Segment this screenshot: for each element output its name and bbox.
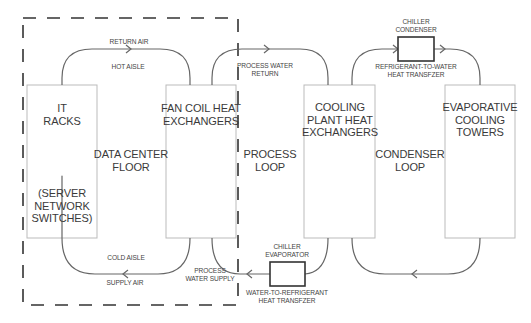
process-water-return-line1: PROCESS WATER [237, 62, 293, 70]
chiller-evaporator-desc2: HEAT TRANSFZER [246, 297, 328, 305]
supply-air-label: SUPPLY AIR [107, 279, 144, 287]
process-loop-line1: PROCESS [243, 148, 296, 161]
fan-coil-line2: EXCHANGERS [161, 115, 241, 128]
hot-aisle-label: HOT AISLE [111, 63, 144, 71]
cooling-plant-line1: COOLING [302, 101, 378, 114]
process-water-supply-line1: PROCESS [185, 267, 234, 275]
cooling-plant-line3: EXCHANGERS [302, 126, 378, 139]
condenser-loop-bottom-line [352, 238, 480, 274]
chiller-condenser-title2: CONDENSER [395, 26, 436, 34]
chiller-evaporator-title1: CHILLER [265, 243, 309, 251]
data-center-floor-label: DATA CENTER FLOOR [94, 148, 168, 173]
chiller-evaporator-title2: EVAPORATOR [265, 251, 309, 259]
chiller-condenser-title1: CHILLER [395, 18, 436, 26]
process-water-return-label: PROCESS WATER RETURN [237, 62, 293, 77]
it-racks-note: (SERVER NETWORK SWITCHES) [32, 187, 93, 225]
process-loop-line2: LOOP [243, 161, 296, 174]
process-loop-label: PROCESS LOOP [243, 148, 296, 173]
condenser-loop-line1: CONDENSER [375, 148, 444, 161]
evaporative-line1: EVAPORATIVE [443, 101, 518, 114]
it-racks-line2: RACKS [43, 115, 80, 128]
it-racks-note-line3: SWITCHES) [32, 212, 93, 225]
process-water-return-line2: RETURN [237, 70, 293, 78]
cooling-plant-line2: PLANT HEAT [302, 114, 378, 127]
return-air-label: RETURN AIR [110, 38, 149, 46]
evaporative-line3: TOWERS [443, 126, 518, 139]
evaporative-label: EVAPORATIVE COOLING TOWERS [443, 101, 518, 139]
chiller-evaporator-title: CHILLER EVAPORATOR [265, 243, 309, 258]
it-racks-label: IT RACKS [43, 102, 80, 127]
fan-coil-label: FAN COIL HEAT EXCHANGERS [161, 102, 241, 127]
chiller-condenser-desc2: HEAT TRANSFZER [375, 71, 456, 79]
it-racks-note-line1: (SERVER [32, 187, 93, 200]
process-water-supply-label: PROCESS WATER SUPPLY [185, 267, 234, 282]
chiller-condenser-title: CHILLER CONDENSER [395, 18, 436, 33]
chiller-evaporator-desc: WATER-TO-REFRIGERANT HEAT TRANSFZER [246, 289, 328, 304]
evaporative-line2: COOLING [443, 114, 518, 127]
process-water-supply-line2: WATER SUPPLY [185, 275, 234, 283]
cooling-plant-label: COOLING PLANT HEAT EXCHANGERS [302, 101, 378, 139]
chiller-evaporator-box [270, 262, 305, 286]
chiller-condenser-desc1: REFRIGERANT-TO-WATER [375, 63, 456, 71]
data-center-floor-line1: DATA CENTER [94, 148, 168, 161]
data-center-floor-line2: FLOOR [94, 161, 168, 174]
chiller-evaporator-desc1: WATER-TO-REFRIGERANT [246, 289, 328, 297]
it-racks-note-line2: NETWORK [32, 200, 93, 213]
condenser-loop-line2: LOOP [375, 161, 444, 174]
condenser-loop-label: CONDENSER LOOP [375, 148, 444, 173]
it-racks-line1: IT [43, 102, 80, 115]
cold-aisle-label: COLD AISLE [107, 254, 144, 262]
chiller-condenser-desc: REFRIGERANT-TO-WATER HEAT TRANSFZER [375, 63, 456, 78]
fan-coil-line1: FAN COIL HEAT [161, 102, 241, 115]
chiller-condenser-box [398, 37, 434, 61]
